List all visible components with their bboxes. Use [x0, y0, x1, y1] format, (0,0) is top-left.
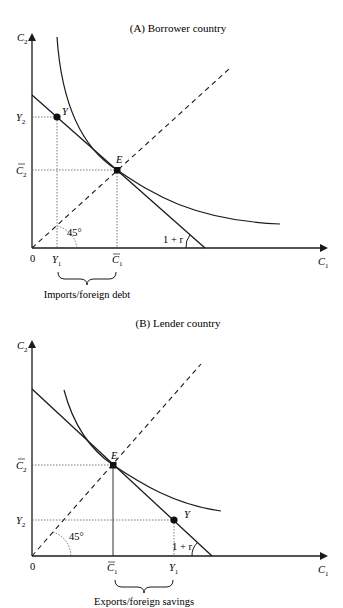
brace: [115, 580, 173, 593]
endowment-point-y: [170, 516, 177, 523]
origin-label: 0: [30, 561, 35, 572]
angle-45-label: 45°: [67, 227, 82, 238]
y-axis-label: C2: [17, 340, 28, 354]
budget-line: [32, 389, 212, 556]
cbar1-label: C1: [107, 562, 118, 576]
origin-label: 0: [30, 253, 35, 264]
y2-label: Y2: [16, 112, 26, 126]
y-axis-label: C2: [17, 32, 28, 46]
slope-label: 1 + r: [163, 234, 183, 245]
y2-label: Y2: [16, 515, 26, 529]
panel-a: (A) Borrower country 45° 1 + r Y E C2 C1…: [16, 22, 329, 300]
point-y-label: Y: [184, 509, 191, 520]
cbar2-label: C2: [16, 460, 27, 474]
panel-b-title: (B) Lender country: [136, 317, 221, 330]
equilibrium-point-e: [110, 462, 117, 469]
indifference-curve: [57, 37, 280, 224]
cbar1-label: C1: [112, 254, 123, 268]
brace: [58, 272, 116, 285]
x-axis-label: C1: [318, 564, 329, 578]
slope-label: 1 + r: [172, 541, 192, 552]
point-e-label: E: [110, 450, 118, 461]
45-degree-line: [32, 69, 229, 248]
panel-a-title: (A) Borrower country: [130, 22, 227, 35]
point-y-label: Y: [62, 106, 69, 117]
angle-45-label: 45°: [69, 531, 84, 542]
slope-arc: [192, 543, 197, 556]
x-axis-label: C1: [318, 256, 329, 270]
y1-label: Y1: [169, 562, 179, 576]
equilibrium-point-e: [114, 167, 121, 174]
brace-caption: Imports/foreign debt: [44, 289, 131, 300]
intertemporal-diagram: (A) Borrower country 45° 1 + r Y E C2 C1…: [0, 0, 343, 608]
slope-arc: [186, 235, 190, 248]
brace-caption: Exports/foreign savings: [94, 596, 194, 607]
panel-b: (B) Lender country 45° 1 + r Y E C2 C1 0…: [16, 317, 329, 607]
point-e-label: E: [115, 154, 123, 165]
cbar2-label: C2: [16, 165, 27, 179]
endowment-point-y: [53, 113, 60, 120]
y1-label: Y1: [52, 254, 62, 268]
